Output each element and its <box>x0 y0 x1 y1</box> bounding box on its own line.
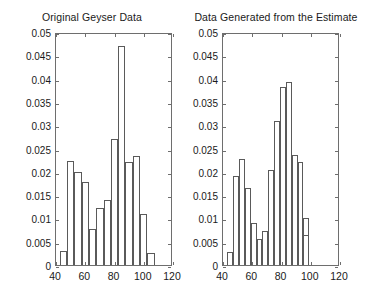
y-tick-label: 0.05 <box>0 28 51 39</box>
x-tick-top <box>223 34 224 37</box>
bars-group-0 <box>56 34 171 265</box>
y-tick-label: 0.03 <box>184 121 218 132</box>
y-tick <box>223 151 226 152</box>
x-tick-label: 120 <box>330 270 348 282</box>
x-tick <box>340 262 341 265</box>
bar <box>118 46 125 265</box>
panel-0-title: Original Geyser Data <box>0 11 184 23</box>
y-tick <box>223 104 226 105</box>
panel-original-geyser-data: Original Geyser Data 00.0050.010.0150.02… <box>0 0 184 300</box>
bar <box>140 214 147 265</box>
y-tick-right <box>335 244 338 245</box>
y-tick-right <box>335 57 338 58</box>
y-tick-label: 0.015 <box>184 191 218 202</box>
bars-group-1 <box>223 34 338 265</box>
y-tick <box>223 81 226 82</box>
bar <box>104 200 111 265</box>
bar <box>147 253 154 265</box>
y-tick <box>56 197 59 198</box>
y-tick <box>223 244 226 245</box>
x-tick-label: 100 <box>301 270 319 282</box>
x-tick-top <box>311 34 312 37</box>
y-tick-label: 0.005 <box>184 237 218 248</box>
y-tick <box>56 81 59 82</box>
y-tick <box>223 197 226 198</box>
x-tick <box>173 262 174 265</box>
y-tick-right <box>168 267 171 268</box>
y-tick-right <box>335 220 338 221</box>
y-tick-right <box>335 104 338 105</box>
y-tick-label: 0.045 <box>184 51 218 62</box>
figure-container: Original Geyser Data 00.0050.010.0150.02… <box>0 0 368 300</box>
x-tick <box>144 262 145 265</box>
bar <box>89 229 96 265</box>
axes-1 <box>222 33 339 266</box>
panel-1-title: Data Generated from the Estimate <box>184 11 368 23</box>
y-tick-label: 0.05 <box>184 28 218 39</box>
x-tick-label: 40 <box>216 270 228 282</box>
y-tick-label: 0.04 <box>0 74 51 85</box>
bar <box>74 172 81 265</box>
x-tick-top <box>173 34 174 37</box>
bar <box>82 182 89 265</box>
y-tick-label: 0.03 <box>0 121 51 132</box>
y-tick-right <box>168 220 171 221</box>
y-tick-right <box>168 151 171 152</box>
y-tick-right <box>335 81 338 82</box>
x-tick <box>311 262 312 265</box>
y-tick-label: 0.025 <box>0 144 51 155</box>
bar <box>125 162 132 265</box>
bar <box>111 139 118 265</box>
x-tick <box>223 262 224 265</box>
y-tick <box>223 267 226 268</box>
bar <box>133 156 140 265</box>
x-tick <box>56 262 57 265</box>
y-tick-right <box>168 127 171 128</box>
y-tick-label: 0 <box>0 261 51 272</box>
y-tick-label: 0.005 <box>0 237 51 248</box>
y-tick-label: 0.02 <box>184 167 218 178</box>
axes-0 <box>55 33 172 266</box>
y-tick <box>223 57 226 58</box>
y-tick <box>223 220 226 221</box>
x-tick <box>115 262 116 265</box>
y-tick-right <box>168 197 171 198</box>
y-tick-right <box>168 104 171 105</box>
x-tick-label: 80 <box>108 270 120 282</box>
y-tick-right <box>168 244 171 245</box>
y-tick-right <box>168 174 171 175</box>
y-tick <box>56 244 59 245</box>
y-tick-label: 0.045 <box>0 51 51 62</box>
x-tick-top <box>144 34 145 37</box>
panel-data-generated-from-estimate: Data Generated from the Estimate 00.0050… <box>184 0 368 300</box>
x-tick-top <box>56 34 57 37</box>
y-tick-right <box>335 174 338 175</box>
x-tick-top <box>252 34 253 37</box>
y-tick <box>56 220 59 221</box>
x-tick-label: 80 <box>275 270 287 282</box>
x-tick-label: 120 <box>163 270 181 282</box>
x-tick-top <box>85 34 86 37</box>
bar <box>67 161 74 265</box>
y-tick-right <box>335 151 338 152</box>
y-tick <box>56 127 59 128</box>
x-tick-top <box>340 34 341 37</box>
x-tick-label: 60 <box>245 270 257 282</box>
x-tick-top <box>282 34 283 37</box>
x-tick <box>252 262 253 265</box>
y-tick <box>56 174 59 175</box>
y-tick-right <box>335 267 338 268</box>
y-tick-right <box>335 197 338 198</box>
y-tick-label: 0.015 <box>0 191 51 202</box>
y-tick-label: 0.01 <box>184 214 218 225</box>
y-tick-right <box>335 34 338 35</box>
y-tick-label: 0.035 <box>0 97 51 108</box>
x-tick-label: 60 <box>78 270 90 282</box>
x-tick-label: 40 <box>49 270 61 282</box>
y-tick-right <box>168 34 171 35</box>
y-tick <box>56 57 59 58</box>
bar <box>96 208 103 265</box>
bar <box>303 235 309 265</box>
y-tick <box>56 267 59 268</box>
y-tick-label: 0 <box>184 261 218 272</box>
